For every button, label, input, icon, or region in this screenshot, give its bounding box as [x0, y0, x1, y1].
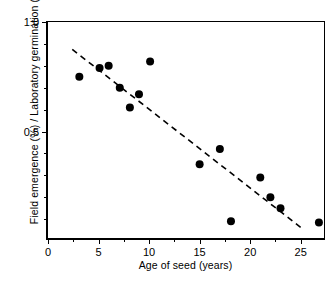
- x-tick-major: [200, 238, 201, 244]
- x-tick-label: 5: [95, 246, 101, 258]
- y-tick-major: [42, 132, 48, 133]
- y-tick-minor: [44, 197, 48, 198]
- y-tick-minor: [44, 219, 48, 220]
- data-point: [126, 103, 134, 111]
- x-axis-title: Age of seed (years): [46, 259, 325, 271]
- y-tick-major: [42, 22, 48, 23]
- figure-scatter-seed-age: Field emergence (%) / Laboratory germina…: [0, 0, 335, 281]
- data-point: [135, 90, 143, 98]
- x-tick-minor: [225, 238, 226, 242]
- y-tick-minor: [44, 66, 48, 67]
- y-tick-label: 0.5: [24, 126, 39, 138]
- y-tick-label: 1.0: [24, 16, 39, 28]
- trend-line: [72, 49, 302, 229]
- y-tick-minor: [44, 175, 48, 176]
- y-tick-minor: [44, 88, 48, 89]
- data-point: [116, 84, 124, 92]
- x-tick-label: 10: [143, 246, 155, 258]
- data-point: [75, 73, 83, 81]
- x-tick-label: 0: [45, 246, 51, 258]
- data-point: [227, 217, 235, 225]
- y-tick-minor: [44, 153, 48, 154]
- data-point: [196, 160, 204, 168]
- data-point: [96, 64, 104, 72]
- x-tick-minor: [73, 238, 74, 242]
- data-point: [216, 145, 224, 153]
- x-tick-minor: [275, 238, 276, 242]
- plot-area: 0.51.00510152025: [46, 21, 325, 240]
- x-tick-major: [99, 238, 100, 244]
- x-tick-minor: [124, 238, 125, 242]
- y-axis-title: Field emergence (%) / Laboratory germina…: [26, 0, 42, 225]
- data-point: [105, 62, 113, 70]
- x-tick-minor: [174, 238, 175, 242]
- data-point: [315, 218, 323, 226]
- x-tick-major: [301, 238, 302, 244]
- x-tick-label: 25: [295, 246, 307, 258]
- x-tick-major: [149, 238, 150, 244]
- x-tick-label: 20: [244, 246, 256, 258]
- x-tick-major: [48, 238, 49, 244]
- y-tick-minor: [44, 110, 48, 111]
- data-layer: [48, 22, 327, 241]
- x-tick-major: [250, 238, 251, 244]
- data-point: [256, 173, 264, 181]
- data-point: [277, 204, 285, 212]
- data-point: [146, 57, 154, 65]
- data-point: [266, 193, 274, 201]
- x-tick-label: 15: [194, 246, 206, 258]
- y-tick-minor: [44, 44, 48, 45]
